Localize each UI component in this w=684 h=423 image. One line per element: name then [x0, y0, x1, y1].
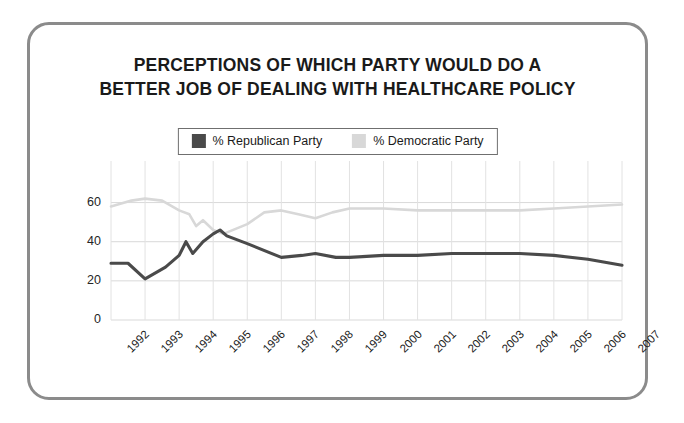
y-axis-tick-label: 60 — [67, 195, 101, 209]
y-axis-tick-label: 0 — [67, 312, 101, 326]
chart-card-frame: PERCEPTIONS OF WHICH PARTY WOULD DO A BE… — [27, 22, 648, 400]
y-axis-tick-label: 20 — [67, 273, 101, 287]
y-axis-tick-label: 40 — [67, 234, 101, 248]
data-series-line-republican — [111, 230, 622, 279]
plot-area: 0204060 19921993199419951996199719981999… — [30, 25, 651, 403]
data-series-line-democratic — [111, 199, 622, 234]
